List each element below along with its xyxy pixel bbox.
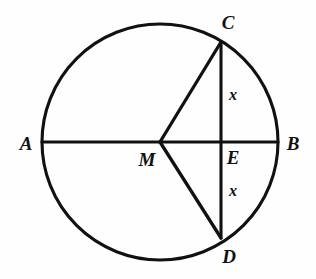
geometry-figure: A B C D M E x x bbox=[0, 0, 316, 279]
measure-label-ed: x bbox=[229, 183, 237, 199]
point-label-a: A bbox=[20, 134, 33, 153]
circle-diagram-canvas bbox=[0, 0, 316, 279]
point-label-c: C bbox=[222, 13, 235, 32]
point-label-b: B bbox=[287, 134, 300, 153]
point-label-e: E bbox=[227, 148, 240, 167]
point-label-m: M bbox=[139, 150, 156, 169]
measure-label-ce: x bbox=[229, 87, 237, 103]
point-label-d: D bbox=[222, 247, 236, 266]
segment-radius-mc bbox=[160, 42, 221, 142]
segment-radius-md bbox=[160, 142, 221, 238]
